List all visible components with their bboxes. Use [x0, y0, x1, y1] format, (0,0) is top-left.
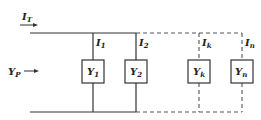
branch-2: Y2 I2 [125, 33, 149, 112]
branch-1: Y1 I1 [82, 33, 106, 112]
branch-n: Yn In [231, 33, 255, 112]
arrow-head-icon [33, 23, 38, 27]
total-current-label: IT [21, 11, 33, 24]
branch-k: Yk Ik [188, 33, 212, 112]
equivalent-admittance-label: YP [8, 66, 21, 79]
circuit-diagram: IT YP Y1 I1 Y2 I2 Yk Ik Yn In [0, 0, 261, 120]
svg-text:I2: I2 [138, 37, 149, 50]
svg-text:I1: I1 [95, 37, 106, 50]
svg-text:Ik: Ik [201, 37, 212, 50]
svg-text:In: In [244, 37, 255, 50]
arrow-head-icon [34, 69, 39, 73]
